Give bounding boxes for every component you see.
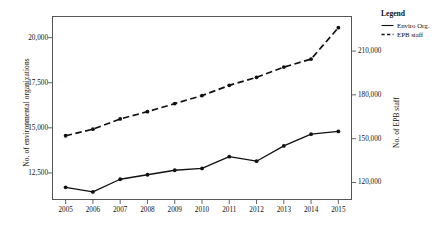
data-point	[255, 159, 259, 163]
data-point	[227, 155, 231, 159]
data-point	[255, 75, 259, 79]
legend: Legend Enviro Org.EPB staff	[381, 9, 439, 40]
y-axis-right-title: No. of EPB staff	[392, 63, 401, 183]
chart-container: 12,50015,00017,50020,000 120,000150,0001…	[0, 0, 439, 235]
data-point	[118, 177, 122, 181]
solid-line-icon	[381, 22, 394, 29]
data-point	[336, 130, 340, 134]
data-point	[91, 190, 95, 194]
data-point	[146, 173, 150, 177]
x-axis-tick-2015: 2015	[318, 206, 358, 214]
dashed-line-icon	[381, 31, 394, 38]
legend-item-enviro-org[interactable]: Enviro Org.	[381, 22, 439, 29]
tick-marks-layer	[48, 38, 356, 204]
series-layer	[0, 0, 439, 235]
data-point	[282, 144, 286, 148]
data-point	[309, 57, 313, 61]
series-line-enviro-org	[66, 131, 339, 191]
data-point	[227, 83, 231, 87]
data-point	[336, 26, 340, 30]
data-point	[146, 110, 150, 114]
data-point	[64, 185, 68, 189]
legend-item-epb-staff[interactable]: EPB staff	[381, 31, 439, 38]
data-point	[309, 132, 313, 136]
legend-title: Legend	[381, 9, 439, 18]
data-point	[282, 65, 286, 69]
data-point	[200, 94, 204, 98]
data-point	[64, 134, 68, 138]
data-point	[200, 167, 204, 171]
legend-items: Enviro Org.EPB staff	[381, 22, 439, 38]
legend-item-label: Enviro Org.	[397, 22, 429, 29]
data-point	[118, 117, 122, 121]
legend-item-label: EPB staff	[397, 31, 423, 38]
data-markers-layer	[64, 26, 341, 194]
series-line-epb-staff	[66, 28, 339, 136]
data-point	[173, 102, 177, 106]
data-point	[91, 127, 95, 131]
data-point	[173, 168, 177, 172]
y-axis-left-title: No. of environmental organizations	[22, 33, 31, 193]
y-axis-right-tick-210000: 210,000	[358, 47, 406, 55]
